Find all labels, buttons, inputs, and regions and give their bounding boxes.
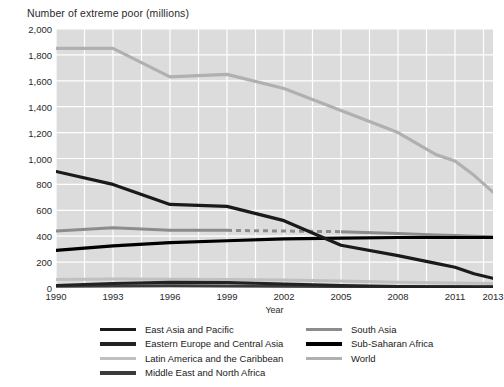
legend-label: Latin America and the Caribbean (145, 353, 283, 364)
y-axis-tick-label: 1,200 (4, 127, 52, 138)
legend-swatch (306, 328, 342, 332)
legend-item[interactable]: Sub-Saharan Africa (306, 337, 433, 352)
x-axis-tick-label: 1993 (102, 291, 123, 302)
x-axis-tick-label: 2008 (387, 291, 408, 302)
series-line (56, 48, 493, 192)
y-axis-tick-label: 1,000 (4, 153, 52, 164)
legend-swatch (100, 328, 136, 332)
legend-column-right: South AsiaSub-Saharan AfricaWorld (306, 322, 433, 366)
legend-item[interactable]: East Asia and Pacific (100, 322, 283, 337)
legend-item[interactable]: Eastern Europe and Central Asia (100, 337, 283, 352)
y-axis-tick-label: 800 (4, 179, 52, 190)
legend-label: World (351, 353, 376, 364)
x-axis-tick-label: 1999 (216, 291, 237, 302)
y-axis-tick-label: 1,800 (4, 49, 52, 60)
y-axis: 02004006008001,0001,2001,4001,6001,8002,… (0, 29, 52, 288)
legend-item[interactable]: Middle East and North Africa (100, 366, 283, 381)
x-axis-tick-label: 2011 (445, 291, 465, 302)
legend-column-left: East Asia and PacificEastern Europe and … (100, 322, 283, 380)
x-axis-tick-label: 2005 (330, 291, 351, 302)
gridlines (56, 29, 493, 288)
legend-item[interactable]: South Asia (306, 322, 433, 337)
plot-svg (56, 29, 493, 288)
x-axis-tick-label: 1996 (159, 291, 180, 302)
y-axis-tick-label: 200 (4, 257, 52, 268)
series-line (227, 230, 341, 231)
y-axis-tick-label: 400 (4, 231, 52, 242)
y-axis-tick-label: 600 (4, 205, 52, 216)
legend-swatch (100, 371, 136, 375)
x-axis-tick-label: 2013 (482, 291, 503, 302)
y-axis-tick-label: 1,400 (4, 101, 52, 112)
legend-swatch (306, 342, 342, 346)
legend-label: Eastern Europe and Central Asia (145, 338, 283, 349)
x-axis-label: Year (56, 305, 493, 315)
chart-legend: East Asia and PacificEastern Europe and … (100, 322, 494, 384)
legend-label: Middle East and North Africa (145, 367, 265, 378)
legend-label: South Asia (351, 324, 396, 335)
legend-label: Sub-Saharan Africa (351, 338, 433, 349)
x-axis: 199019931996199920022005200820112013 (56, 291, 493, 305)
x-axis-tick-label: 2002 (273, 291, 294, 302)
series-line (56, 228, 227, 231)
plot-area (56, 29, 493, 288)
legend-item[interactable]: World (306, 351, 433, 366)
y-axis-tick-label: 2,000 (4, 24, 52, 35)
series-line (56, 238, 493, 251)
chart-title: Number of extreme poor (millions) (27, 7, 189, 19)
legend-label: East Asia and Pacific (145, 324, 234, 335)
y-axis-tick-label: 1,600 (4, 75, 52, 86)
x-axis-tick-label: 1990 (45, 291, 66, 302)
legend-item[interactable]: Latin America and the Caribbean (100, 351, 283, 366)
legend-swatch (100, 357, 136, 361)
legend-swatch (306, 357, 342, 361)
legend-swatch (100, 342, 136, 346)
